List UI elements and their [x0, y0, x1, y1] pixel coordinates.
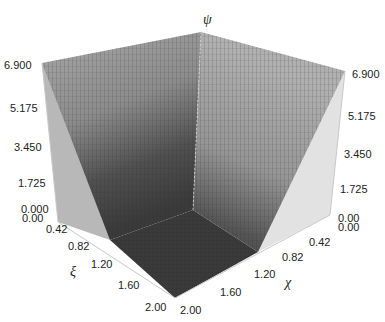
xi-axis-label: ξ	[70, 264, 76, 279]
chi-tick: 1.20	[254, 268, 275, 280]
z-tick-right: 1.725	[340, 183, 368, 195]
xi-tick: 0.82	[68, 240, 89, 252]
xi-tick: 2.00	[145, 301, 166, 313]
chi-tick: 0.42	[309, 236, 330, 248]
xi-tick: 0.42	[46, 223, 67, 235]
z-tick-right: 6.900	[352, 68, 380, 80]
z-tick-right: 5.175	[348, 110, 376, 122]
z-tick-left: 1.725	[18, 177, 46, 189]
z-tick-left: 6.900	[4, 59, 32, 71]
chi-tick: 0.82	[282, 251, 303, 263]
z-tick-right: 3.450	[344, 148, 372, 160]
z-axis-label: ψ	[203, 12, 212, 27]
chi-axis-label: χ	[283, 275, 292, 290]
chi-tick: 2.00	[180, 304, 201, 316]
z-tick-left: 5.175	[10, 102, 38, 114]
z-tick-left: 3.450	[14, 141, 42, 153]
xi-tick: 1.60	[118, 279, 139, 291]
xi-tick: 1.20	[91, 258, 112, 270]
xi-tick: 0.00	[22, 212, 43, 224]
chi-tick: 1.60	[220, 286, 241, 298]
chi-tick: 0.00	[338, 221, 359, 233]
surface-plot: 6.900 5.175 3.450 1.725 0.000 6.900 5.17…	[0, 0, 385, 322]
